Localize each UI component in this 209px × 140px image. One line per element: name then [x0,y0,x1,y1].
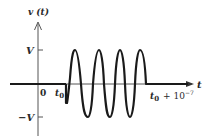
tick-label-V: V [26,45,35,56]
waveform-figure: v (t) t V −V 0 t0 t0+ 10−7 [0,0,209,140]
y-axis-label: v (t) [28,7,49,17]
tick-label-negV: −V [18,112,35,123]
t-end-label: t0+ 10−7 [150,89,194,103]
origin-label: 0 [40,88,46,98]
x-axis-label: t [197,79,202,90]
t0-label: t0 [55,88,64,100]
